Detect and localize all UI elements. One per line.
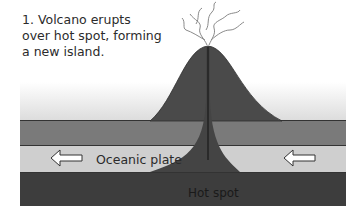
- upper-layer-band: [20, 120, 346, 145]
- eruption-smoke-icon: [182, 2, 244, 45]
- hotspot-volcano-diagram: [0, 0, 364, 215]
- hot-spot-label: Hot spot: [188, 186, 239, 200]
- mantle-band: [20, 172, 346, 206]
- oceanic-plate-label: Oceanic plate: [96, 152, 182, 167]
